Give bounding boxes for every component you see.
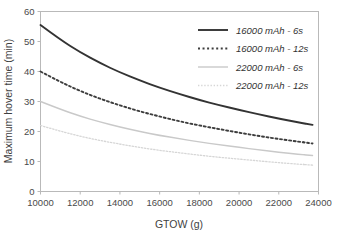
chart-legend: 16000 mAh - 6s16000 mAh - 12s22000 mAh -… bbox=[198, 25, 309, 92]
y-axis-title: Maximum hover time (min) bbox=[2, 39, 14, 163]
series-line-3 bbox=[41, 102, 313, 156]
y-axis-tick-labels: 0102030405060 bbox=[24, 6, 35, 197]
legend-label-1: 16000 mAh - 6s bbox=[236, 25, 303, 36]
legend-label-4: 22000 mAh - 12s bbox=[235, 80, 309, 91]
y-tick-label: 20 bbox=[24, 126, 35, 137]
hover-time-line-chart: 0102030405060 10000120001400016000180002… bbox=[0, 0, 356, 240]
x-tick-label: 10000 bbox=[27, 197, 53, 208]
x-tick-label: 16000 bbox=[146, 197, 172, 208]
x-axis-title: GTOW (g) bbox=[155, 218, 203, 230]
plot-frame bbox=[41, 12, 319, 192]
y-tick-label: 30 bbox=[24, 96, 35, 107]
y-tick-label: 40 bbox=[24, 66, 35, 77]
legend-label-2: 16000 mAh - 12s bbox=[236, 43, 309, 54]
x-tick-label: 22000 bbox=[266, 197, 292, 208]
y-tick-label: 10 bbox=[24, 156, 35, 167]
series-line-4 bbox=[41, 126, 313, 166]
x-axis-tick-labels: 1000012000140001600018000200002200024000 bbox=[27, 197, 331, 208]
x-tick-label: 18000 bbox=[186, 197, 212, 208]
y-tick-label: 60 bbox=[24, 6, 35, 17]
x-tick-label: 12000 bbox=[67, 197, 93, 208]
chart-container: 0102030405060 10000120001400016000180002… bbox=[0, 0, 356, 240]
x-tick-label: 14000 bbox=[107, 197, 133, 208]
y-tick-label: 50 bbox=[24, 36, 35, 47]
y-tick-label: 0 bbox=[29, 186, 34, 197]
series-line-1 bbox=[41, 25, 313, 125]
legend-label-3: 22000 mAh - 6s bbox=[235, 62, 303, 73]
x-tick-label: 24000 bbox=[305, 197, 331, 208]
x-tick-label: 20000 bbox=[226, 197, 252, 208]
